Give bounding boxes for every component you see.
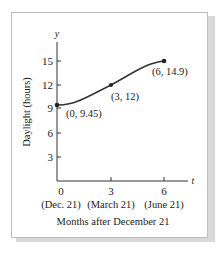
x-axis-label: Months after December 21 [57,216,170,227]
y-axis-var: y [54,28,60,39]
y-tick-label: 6 [48,127,54,139]
y-axis-label: Daylight (hours) [21,77,33,147]
x-tick-label: 3 [108,185,114,197]
point-annotation: (6, 14.9) [152,66,188,78]
x-tick-sublabel: (Dec. 21) [41,199,81,211]
y-ticks: 15 12 9 6 3 [42,55,61,163]
x-tick-label: 6 [161,185,167,197]
point-annotation: (0, 9.45) [66,108,102,120]
daylight-chart: y t 15 12 9 6 3 0 3 6 (Dec. 21) (March 2… [0,0,224,253]
data-point [55,103,60,108]
x-ticks: 0 3 6 (Dec. 21) (March 21) (June 21) [41,177,184,211]
x-tick-label: 0 [58,185,64,197]
x-axis-var: t [192,175,195,186]
y-tick-label: 12 [42,79,53,91]
data-point [162,59,167,64]
y-tick-label: 3 [48,151,54,163]
x-tick-sublabel: (March 21) [87,199,135,211]
point-annotation: (3, 12) [111,91,139,103]
x-tick-sublabel: (June 21) [144,199,184,211]
y-tick-label: 15 [42,55,54,67]
y-tick-label: 9 [48,102,54,114]
data-point [109,83,113,87]
